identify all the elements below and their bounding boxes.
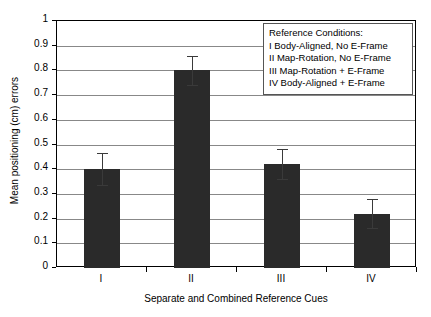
- error-bar-cap-lower: [97, 185, 108, 186]
- x-tick-mark: [326, 267, 327, 272]
- bar: [174, 70, 210, 268]
- x-tick-label: I: [71, 273, 131, 284]
- y-tick-label: 0.4: [18, 162, 48, 172]
- y-tick-label: 0.2: [18, 212, 48, 222]
- x-tick-mark: [416, 267, 417, 272]
- error-bar-line: [102, 153, 103, 185]
- legend: Reference Conditions: I Body-Aligned, No…: [263, 23, 413, 95]
- y-tick-label: 0.5: [18, 138, 48, 148]
- error-bar-line: [282, 149, 283, 179]
- y-tick-mark: [52, 267, 56, 268]
- y-tick-label: 0.9: [18, 39, 48, 49]
- gridline: [57, 120, 415, 121]
- legend-entry-4: IV Body-Aligned + E-Frame: [269, 77, 407, 90]
- error-bar-line: [372, 199, 373, 229]
- x-tick-mark: [236, 267, 237, 272]
- error-bar-line: [192, 56, 193, 86]
- legend-entry-1: I Body-Aligned, No E-Frame: [269, 40, 407, 53]
- error-bar-cap-lower: [187, 85, 198, 86]
- x-tick-label: IV: [341, 273, 401, 284]
- y-tick-label: 0: [18, 261, 48, 271]
- bar-chart-figure: Mean positioning (cm) errors 00.10.20.30…: [0, 0, 431, 317]
- error-bar-cap-upper: [277, 149, 288, 150]
- x-axis-title: Separate and Combined Reference Cues: [56, 293, 416, 304]
- error-bar-cap-upper: [187, 56, 198, 57]
- error-bar-cap-upper: [97, 153, 108, 154]
- x-tick-label: III: [251, 273, 311, 284]
- legend-title: Reference Conditions:: [269, 27, 407, 40]
- y-tick-label: 0.6: [18, 113, 48, 123]
- y-tick-label: 0.3: [18, 187, 48, 197]
- gridline: [57, 95, 415, 96]
- legend-entry-2: II Map-Rotation, No E-Frame: [269, 52, 407, 65]
- y-tick-label: 0.1: [18, 236, 48, 246]
- y-tick-label: 1: [18, 14, 48, 24]
- x-tick-mark: [146, 267, 147, 272]
- x-tick-label: II: [161, 273, 221, 284]
- y-tick-label: 0.8: [18, 63, 48, 73]
- error-bar-cap-lower: [367, 228, 378, 229]
- error-bar-cap-upper: [367, 199, 378, 200]
- legend-entry-3: III Map-Rotation + E-Frame: [269, 65, 407, 78]
- error-bar-cap-lower: [277, 179, 288, 180]
- y-tick-label: 0.7: [18, 88, 48, 98]
- gridline: [57, 145, 415, 146]
